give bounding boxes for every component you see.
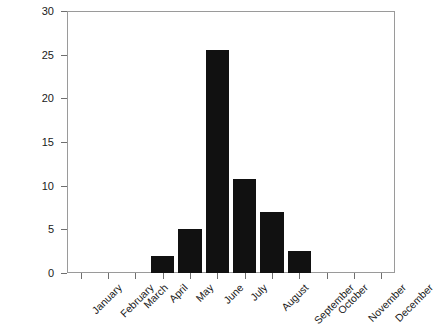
- x-axis-tick: [190, 273, 191, 279]
- y-axis-tick: [61, 98, 67, 99]
- x-axis-tick: [299, 273, 300, 279]
- x-axis-tick-label: August: [280, 282, 311, 313]
- y-axis-tick-label: 30: [0, 6, 54, 17]
- x-axis-tick: [81, 273, 82, 279]
- x-axis-tick: [245, 273, 246, 279]
- y-axis-tick: [61, 142, 67, 143]
- bar-september: [288, 251, 311, 273]
- x-axis-label-july: July: [248, 282, 269, 303]
- x-axis-label-april: April: [167, 282, 189, 304]
- y-axis-tick-label: 20: [0, 93, 54, 104]
- y-axis-tick-label: 10: [0, 180, 54, 191]
- x-axis-tick: [108, 273, 109, 279]
- x-axis-label-june: June: [222, 282, 246, 306]
- x-axis-tick-label: May: [194, 282, 215, 303]
- x-axis-tick: [354, 273, 355, 279]
- x-axis-label-may: May: [194, 282, 215, 303]
- bar-june: [206, 50, 229, 273]
- y-axis-tick: [61, 186, 67, 187]
- bar-august: [260, 212, 283, 273]
- y-axis-tick-label: 15: [0, 137, 54, 148]
- x-axis-tick: [217, 273, 218, 279]
- x-axis-tick-label: June: [222, 282, 246, 306]
- bar-april: [151, 256, 174, 273]
- plot-area: [67, 11, 395, 273]
- x-axis-tick-label: April: [167, 282, 189, 304]
- x-axis-label-august: August: [280, 282, 311, 313]
- y-axis-tick: [61, 229, 67, 230]
- x-axis-tick: [327, 273, 328, 279]
- y-axis-tick-label: 0: [0, 268, 54, 279]
- x-axis-tick: [163, 273, 164, 279]
- y-axis-tick: [61, 55, 67, 56]
- bar-july: [233, 179, 256, 273]
- y-axis-tick-label: 5: [0, 224, 54, 235]
- bar-may: [178, 229, 201, 273]
- x-axis-tick: [135, 273, 136, 279]
- x-axis-tick-label: July: [248, 282, 269, 303]
- y-axis-tick: [61, 273, 67, 274]
- y-axis-tick: [61, 11, 67, 12]
- x-axis-tick: [381, 273, 382, 279]
- x-axis-tick: [272, 273, 273, 279]
- y-axis-tick-label: 25: [0, 49, 54, 60]
